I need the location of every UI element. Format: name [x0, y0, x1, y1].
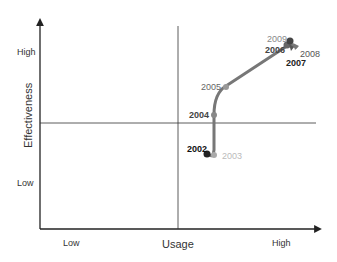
label-2003: 2003: [222, 151, 242, 161]
label-2002: 2002: [187, 144, 207, 154]
point-2003: [211, 152, 217, 158]
label-2007: 2007: [286, 58, 306, 68]
point-2005: [223, 84, 229, 90]
x-axis-title: Usage: [162, 238, 194, 250]
point-2004: [211, 112, 217, 118]
y-tick-low: Low: [17, 178, 34, 188]
label-2004: 2004: [189, 110, 209, 120]
trajectory-line: [210, 44, 296, 156]
x-tick-low: Low: [63, 238, 80, 248]
y-axis-title: Effectiveness: [22, 82, 34, 148]
point-2009: [287, 38, 294, 45]
label-2006: 2006: [265, 45, 285, 55]
usage-effectiveness-chart: High Low Low High Usage Effectiveness 20…: [0, 0, 337, 262]
y-tick-high: High: [17, 47, 36, 57]
x-tick-high: High: [272, 238, 291, 248]
label-2009: 2009: [267, 34, 287, 44]
label-2005: 2005: [201, 82, 221, 92]
